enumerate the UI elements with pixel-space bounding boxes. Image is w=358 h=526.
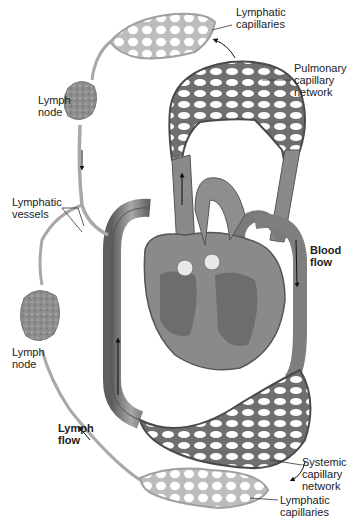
- lymphatic-capillaries-top: [110, 14, 215, 59]
- lymph-node-bottom: [20, 290, 59, 340]
- label-lymphatic-capillaries-top: Lymphatic capillaries: [236, 6, 286, 30]
- label-blood-flow: Blood flow: [310, 244, 341, 268]
- diagram-stage: Lymphatic capillaries Pulmonary capillar…: [0, 0, 358, 526]
- label-lymph-node-bottom: Lymph node: [12, 346, 45, 370]
- label-systemic-capillary-network: Systemic capillary network: [302, 456, 347, 492]
- label-lymphatic-capillaries-bottom: Lymphatic capillaries: [280, 494, 330, 518]
- label-lymphatic-vessels: Lymphatic vessels: [12, 196, 62, 220]
- label-lymph-node-top: Lymph node: [38, 94, 71, 118]
- label-pulmonary-capillary-network: Pulmonary capillary network: [294, 62, 347, 98]
- lymphatic-capillaries-bottom: [140, 469, 268, 508]
- label-lymph-flow: Lymph flow: [58, 422, 94, 446]
- heart: [144, 178, 285, 370]
- systemic-capillary-network: [140, 370, 310, 468]
